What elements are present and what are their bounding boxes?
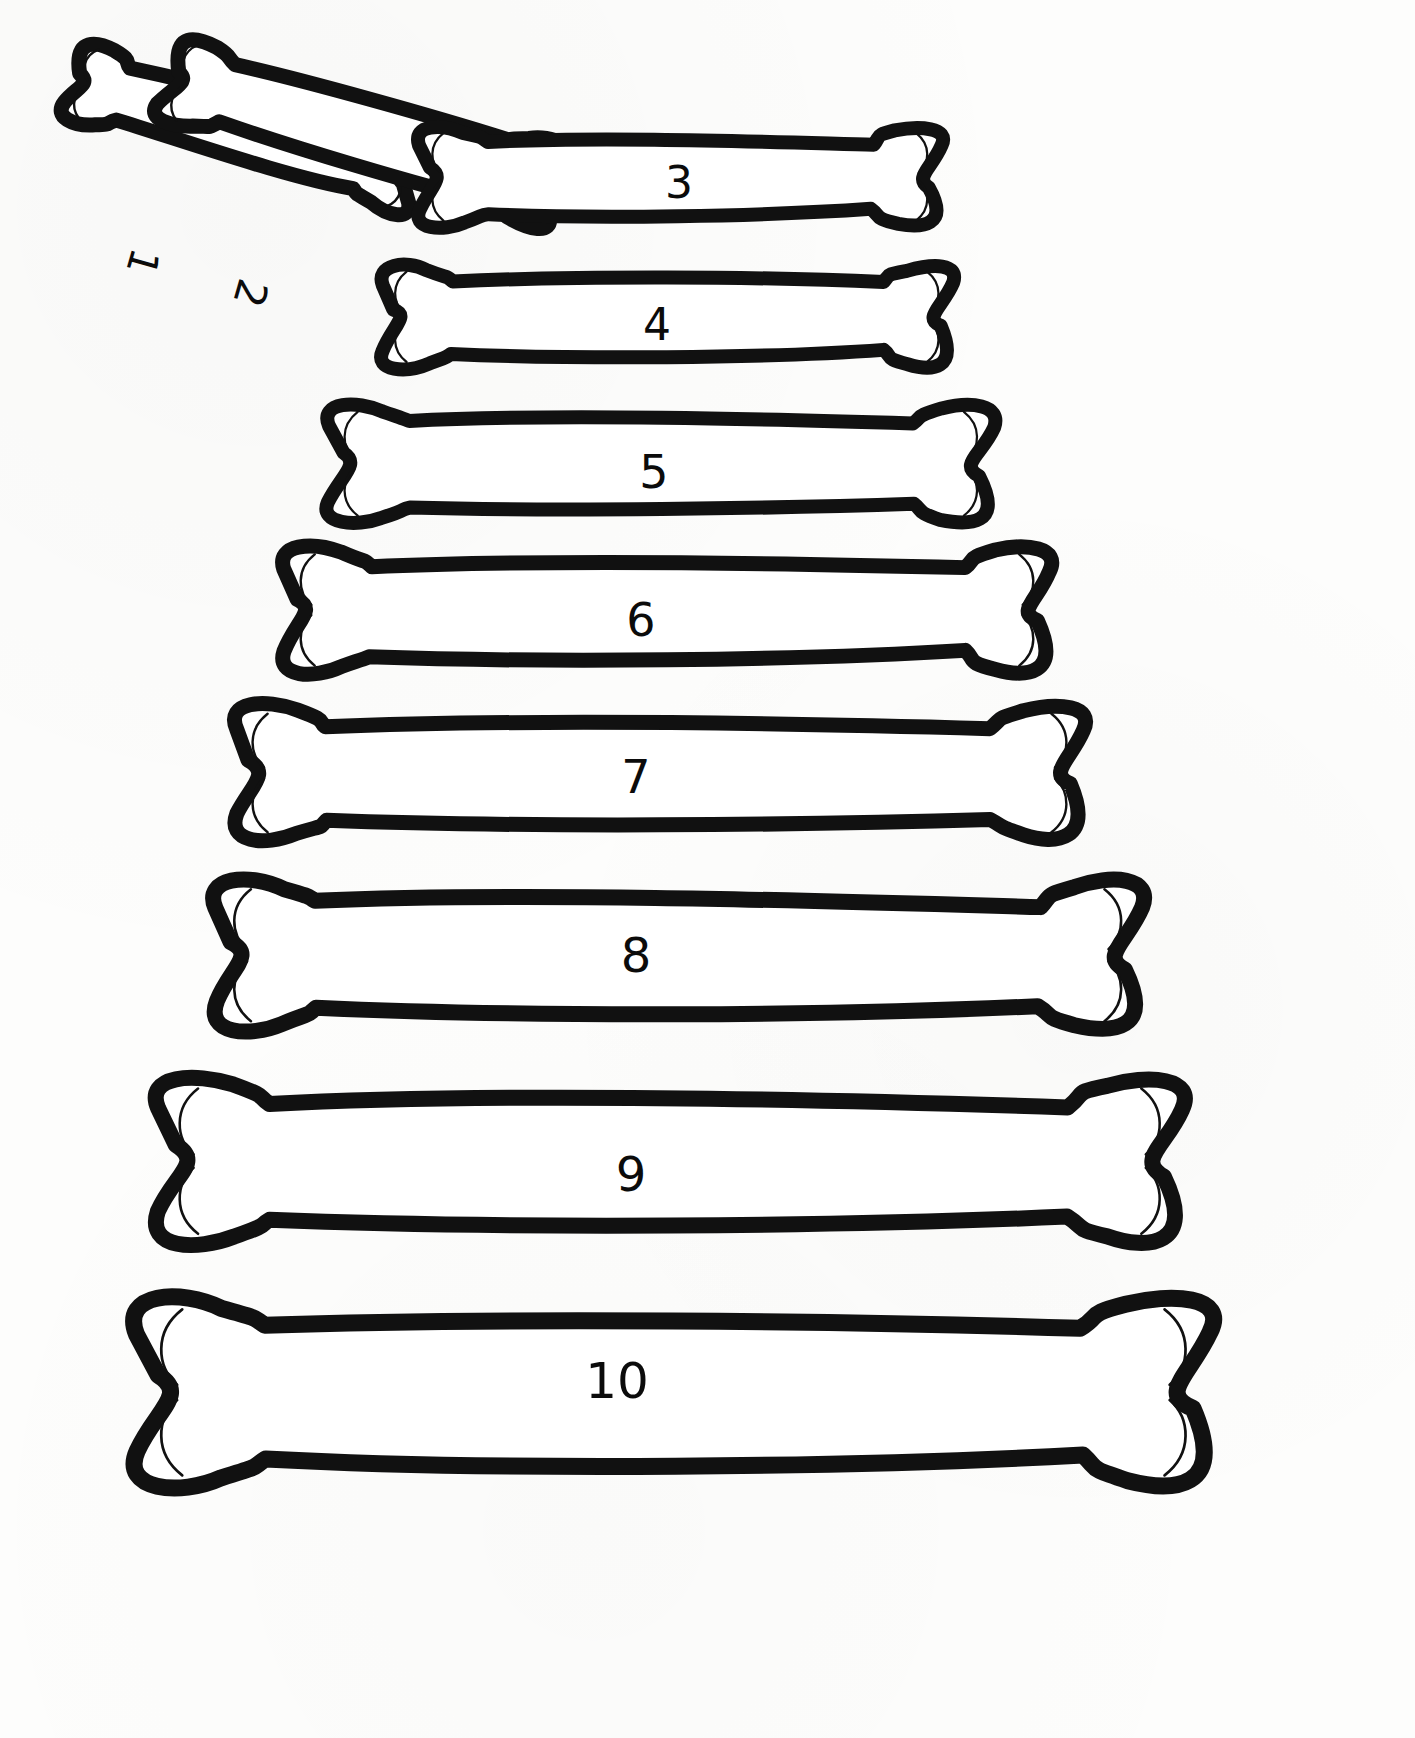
bone-outline [213,879,1144,1031]
bone-outline [234,704,1085,841]
worksheet-page: 12345678910 [0,0,1415,1738]
bone-number-label-1: 1 [120,244,165,279]
bone-number-label-5: 5 [639,449,668,495]
bone-number-label-7: 7 [621,754,650,800]
bone-number-label-3: 3 [665,161,693,205]
bone-number-label-4: 4 [643,303,671,347]
bone-outline [133,1296,1213,1487]
bone-shape-10[interactable] [81,1243,1266,1542]
bone-number-label-9: 9 [616,1150,647,1198]
bone-number-label-2: 2 [226,274,274,311]
bone-number-label-8: 8 [621,931,652,979]
bone-number-label-6: 6 [626,597,655,643]
bone-outline [155,1078,1184,1245]
bone-number-label-10: 10 [585,1356,649,1406]
bone-outline [283,546,1052,674]
